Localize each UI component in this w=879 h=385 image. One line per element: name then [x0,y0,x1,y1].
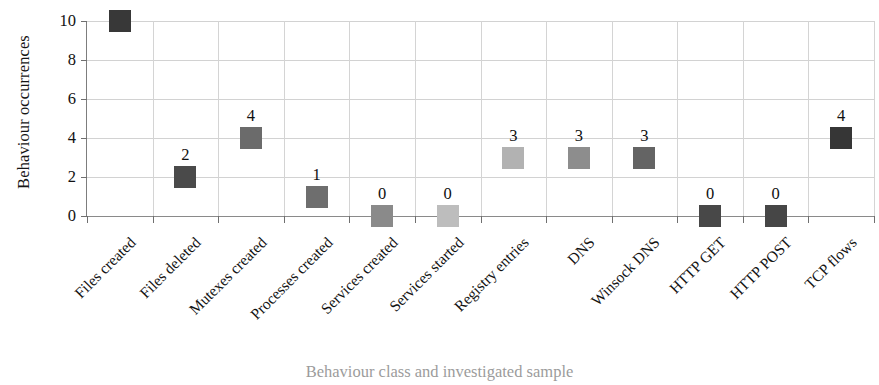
x-axis-title: Behaviour class and investigated sample [0,362,879,382]
